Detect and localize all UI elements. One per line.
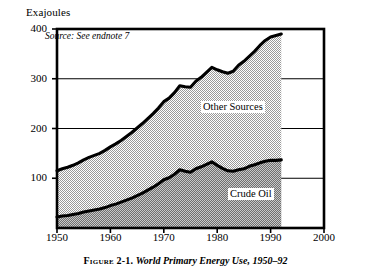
x-tick-label-1960: 1960	[90, 232, 130, 243]
x-tick-label-2000: 2000	[304, 232, 344, 243]
x-tick-label-1950: 1950	[37, 232, 77, 243]
x-tick-label-1980: 1980	[197, 232, 237, 243]
source-note: Source: See endnote 7	[45, 31, 129, 42]
x-tick-label-1970: 1970	[144, 232, 184, 243]
figure-caption: Figure 2-1. World Primary Energy Use, 19…	[0, 255, 371, 267]
x-tick-label-1990: 1990	[251, 232, 291, 243]
y-tick-label-100: 100	[17, 172, 47, 183]
y-tick-label-400: 400	[17, 23, 47, 34]
figure-chart: Exajoules Source: See endnote 7 Other So…	[0, 0, 371, 277]
figure-title: World Primary Energy Use, 1950–92	[136, 255, 288, 266]
y-tick-label-200: 200	[17, 123, 47, 134]
y-tick-label-300: 300	[17, 73, 47, 84]
series-label-other-sources: Other Sources	[201, 101, 265, 113]
figure-number: Figure 2-1.	[84, 255, 134, 266]
series-label-crude-oil: Crude Oil	[228, 188, 274, 200]
